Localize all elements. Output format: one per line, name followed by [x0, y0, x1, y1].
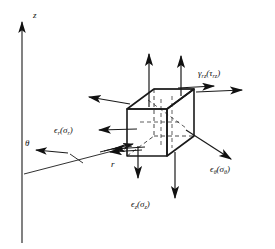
svg-text:ϵθ(σθ): ϵθ(σθ) [210, 164, 230, 175]
arrow-hoop-right-lower [186, 130, 231, 159]
axial-arrows [138, 54, 181, 198]
theta-axis [24, 146, 132, 174]
radial-arrows [89, 97, 137, 130]
label-epsilon-r: ϵr(σr) [54, 125, 73, 136]
cube-center-lines [140, 96, 186, 148]
arrow-shear-top-right [178, 86, 214, 88]
stress-element-diagram: z θ r γrz(τrz) ϵr(σr) ϵθ(σθ) ϵz(σz) [0, 0, 275, 249]
label-gamma-rz: γrz(τrz) [198, 68, 220, 79]
theta-axis-label: θ [25, 138, 30, 148]
svg-text:γrz(τrz): γrz(τrz) [198, 68, 220, 79]
theta-arrow [36, 150, 68, 153]
z-axis-label: z [32, 10, 37, 20]
label-epsilon-z: ϵz(σz) [131, 199, 150, 210]
figure-canvas: z θ r γrz(τrz) ϵr(σr) ϵθ(σθ) ϵz(σz) [0, 0, 275, 249]
label-epsilon-theta: ϵθ(σθ) [210, 164, 230, 175]
arrow-radial-left-upper [89, 97, 130, 104]
r-axis-label: r [111, 159, 115, 169]
svg-text:ϵr(σr): ϵr(σr) [54, 125, 73, 136]
shear-arrows [110, 86, 214, 152]
cube-top-face [127, 89, 194, 109]
cube-hidden-edges [127, 89, 194, 156]
arrow-hoop-right-upper [196, 90, 242, 92]
cube-right-face [167, 89, 194, 156]
svg-text:ϵz(σz): ϵz(σz) [131, 199, 150, 210]
arrow-radial-left-lower [99, 129, 137, 130]
cube-element [127, 89, 194, 156]
